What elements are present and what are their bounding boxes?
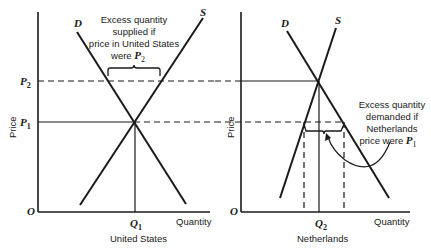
us-supply-label: S	[200, 6, 206, 18]
nl-x-axis-label: Quantity	[374, 216, 410, 227]
svg-text:were P2: were P2	[110, 49, 145, 64]
svg-text:Excess quantity: Excess quantity	[101, 14, 168, 25]
svg-text:price in United States: price in United States	[89, 38, 180, 49]
svg-text:Excess quantity: Excess quantity	[359, 99, 426, 110]
nl-supply-label: S	[335, 14, 341, 26]
us-origin-label: O	[27, 205, 35, 217]
nl-excess-demand-brace	[304, 124, 344, 134]
us-p2-label: P2	[20, 75, 31, 90]
us-excess-supply-annotation: Excess quantity supplied if price in Uni…	[89, 14, 180, 64]
nl-q2-label: Q2	[315, 217, 327, 232]
svg-text:demanded if: demanded if	[366, 111, 419, 122]
nl-excess-demand-annotation: Excess quantity demanded if Netherlands …	[359, 99, 426, 149]
svg-text:supplied if: supplied if	[113, 26, 156, 37]
nl-supply-curve	[280, 28, 336, 198]
nl-panel-title: Netherlands	[297, 233, 348, 244]
us-demand-label: D	[73, 17, 82, 29]
panel-united-states: D S P2 P1 Price O Q1 Quantity United Sta…	[7, 6, 215, 244]
us-x-axis-label: Quantity	[176, 216, 212, 227]
us-excess-supply-brace	[108, 65, 160, 76]
panel-netherlands: D S Price O Q2 Quantity Netherlands Exce…	[215, 12, 426, 244]
nl-origin-label: O	[230, 205, 238, 217]
svg-text:Netherlands: Netherlands	[366, 123, 417, 134]
us-y-axis-label: Price	[7, 116, 18, 138]
nl-demand-label: D	[280, 17, 289, 29]
nl-y-axis-label: Price	[225, 116, 236, 138]
us-panel-title: United States	[110, 233, 167, 244]
us-p1-label: P1	[20, 116, 31, 131]
us-q1-label: Q1	[130, 217, 142, 232]
arrowhead-icon	[325, 133, 331, 141]
trade-equilibrium-diagram: D S P2 P1 Price O Q1 Quantity United Sta…	[0, 0, 431, 250]
